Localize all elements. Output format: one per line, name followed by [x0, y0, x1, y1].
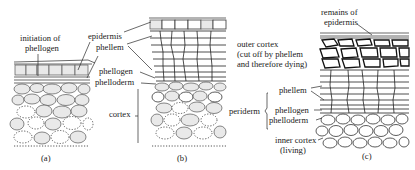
panel-c-tissue [316, 33, 409, 148]
label-epidermis: epidermis [88, 31, 123, 41]
label-initiation-of-phellogen-line1: initiation of [20, 33, 60, 43]
leader-phellogen [140, 72, 155, 78]
caption-c: (c) [362, 151, 372, 161]
label-outer-cortex-line3: and therefore dying) [237, 59, 307, 69]
bracket-periderm [265, 93, 268, 129]
panel-b: epidermis phellem phellogen phelloderm c… [78, 18, 226, 163]
label-remains-of-epidermis-line1: remains of [321, 7, 358, 17]
periderm-development-diagram: initiation of phellogen (a) [0, 0, 415, 170]
panel-a-tissue [10, 60, 95, 146]
label-phellem-c: phellem [279, 85, 307, 95]
label-inner-cortex-line1: inner cortex [275, 135, 317, 145]
leader-phellem-b [127, 36, 152, 44]
panel-b-tissue [149, 18, 226, 146]
label-remains-of-epidermis-line2: epidermis [324, 17, 359, 27]
label-phellem: phellem [96, 42, 124, 52]
leader-epidermis-b [124, 22, 151, 32]
label-outer-cortex-line1: outer cortex [237, 39, 279, 49]
label-initiation-of-phellogen-line2: phellogen [25, 43, 60, 53]
panel-c: remains of epidermis outer cortex (cut o… [229, 7, 409, 161]
label-inner-cortex-line2: (living) [280, 145, 306, 155]
leader-phellem-a [87, 56, 98, 78]
label-phellogen-c: phellogen [275, 105, 310, 115]
label-cortex: cortex [109, 109, 131, 119]
label-outer-cortex-line2: (cut off by phellem [237, 49, 303, 59]
bracket-cortex [135, 89, 138, 143]
label-phelloderm-c: phelloderm [269, 115, 308, 125]
caption-a: (a) [41, 153, 51, 163]
caption-b: (b) [177, 153, 187, 163]
leader-phelloderm [141, 83, 156, 84]
label-phelloderm: phelloderm [95, 77, 134, 87]
label-phellogen: phellogen [99, 66, 134, 76]
panel-a: initiation of phellogen (a) [10, 33, 95, 163]
leader-inner-cortex [318, 138, 323, 140]
label-periderm: periderm [229, 106, 260, 116]
